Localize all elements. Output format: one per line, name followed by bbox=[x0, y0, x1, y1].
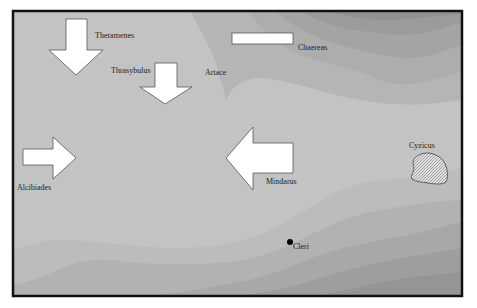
cleri-label: Cleri bbox=[293, 242, 310, 251]
battle-map: Theramenes Thrasybulus Artace Chaereas A… bbox=[0, 0, 477, 308]
cyzicus-label: Cyzicus bbox=[409, 141, 435, 150]
alcibiades-label: Alcibiades bbox=[17, 183, 51, 192]
thrasybulus-label: Thrasybulus bbox=[111, 66, 151, 75]
chaereas-ships bbox=[232, 33, 293, 44]
theramenes-label: Theramenes bbox=[95, 31, 134, 40]
chaereas-label: Chaereas bbox=[298, 43, 327, 52]
artace-label: Artace bbox=[205, 68, 227, 77]
mindarus-label: Mindarus bbox=[266, 177, 297, 186]
